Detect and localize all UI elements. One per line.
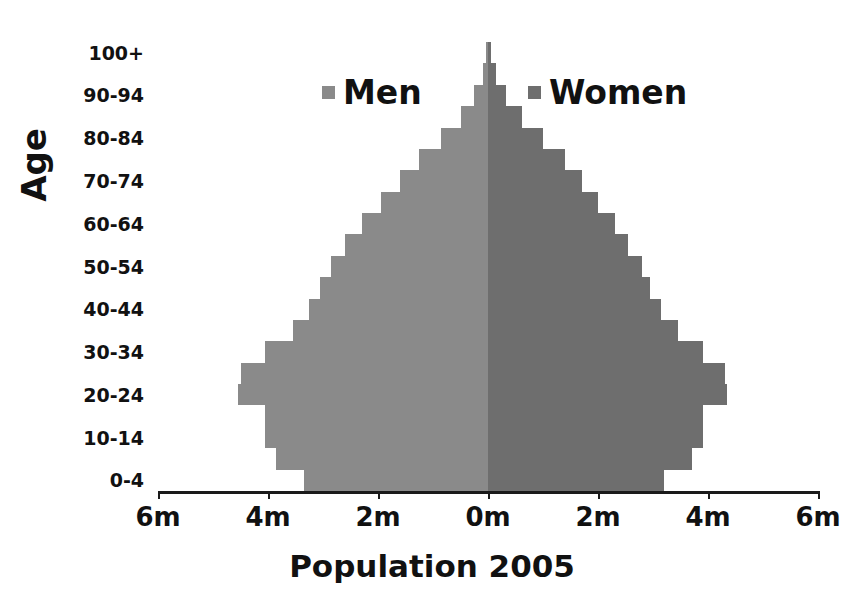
bar-row <box>158 85 818 106</box>
bar-row <box>158 106 818 127</box>
bar-row <box>158 128 818 149</box>
bar-women-15-19 <box>488 405 703 426</box>
y-tick-label-70-74: 70-74 <box>58 172 144 191</box>
bar-women-20-24 <box>488 384 727 405</box>
bar-men-0-4 <box>304 470 488 491</box>
y-tick-label-60-64: 60-64 <box>58 215 144 234</box>
bar-men-45-49 <box>320 277 488 298</box>
x-tick-mark <box>818 491 820 499</box>
bar-men-10-14 <box>265 427 488 448</box>
bar-men-20-24 <box>238 384 488 405</box>
bar-women-50-54 <box>488 256 642 277</box>
bar-row <box>158 427 818 448</box>
x-tick-label-5: 4m <box>668 502 748 532</box>
bar-row <box>158 256 818 277</box>
bar-women-60-64 <box>488 213 615 234</box>
x-tick-label-0: 6m <box>118 502 198 532</box>
y-tick-label-40-44: 40-44 <box>58 300 144 319</box>
bar-row <box>158 448 818 469</box>
bar-row <box>158 63 818 84</box>
bar-men-80-84 <box>441 128 488 149</box>
bar-men-5-9 <box>276 448 488 469</box>
bar-row <box>158 213 818 234</box>
bar-women-70-74 <box>488 170 582 191</box>
y-tick-label-10-14: 10-14 <box>58 429 144 448</box>
x-tick-label-2: 2m <box>338 502 418 532</box>
bar-women-45-49 <box>488 277 650 298</box>
bar-women-85-89 <box>488 106 522 127</box>
bar-men-40-44 <box>309 299 488 320</box>
bar-men-35-39 <box>293 320 488 341</box>
bar-men-65-69 <box>381 192 488 213</box>
bar-row <box>158 234 818 255</box>
bar-women-95-99 <box>488 63 496 84</box>
bar-women-65-69 <box>488 192 598 213</box>
y-tick-label-0-4: 0-4 <box>58 471 144 490</box>
bar-men-70-74 <box>400 170 488 191</box>
bar-row <box>158 405 818 426</box>
x-tick-label-4: 2m <box>558 502 638 532</box>
population-pyramid-chart: Age 100+90-9480-8470-7460-6450-5440-4430… <box>0 0 864 615</box>
x-tick-label-6: 6m <box>778 502 858 532</box>
x-tick-label-1: 4m <box>228 502 308 532</box>
bar-row <box>158 363 818 384</box>
y-tick-label-30-34: 30-34 <box>58 343 144 362</box>
bar-row <box>158 170 818 191</box>
x-tick-mark <box>708 491 710 499</box>
x-tick-mark <box>378 491 380 499</box>
bar-women-40-44 <box>488 299 661 320</box>
x-tick-mark <box>268 491 270 499</box>
bar-women-10-14 <box>488 427 703 448</box>
bar-men-90-94 <box>474 85 488 106</box>
bar-women-75-79 <box>488 149 565 170</box>
bar-men-85-89 <box>461 106 489 127</box>
x-tick-mark <box>598 491 600 499</box>
x-tick-label-3: 0m <box>448 502 528 532</box>
bar-row <box>158 42 818 63</box>
bar-women-0-4 <box>488 470 664 491</box>
bar-men-60-64 <box>362 213 489 234</box>
bar-women-25-29 <box>488 363 725 384</box>
bar-women-30-34 <box>488 341 703 362</box>
bar-women-5-9 <box>488 448 692 469</box>
y-axis-tick-labels: 100+90-9480-8470-7460-6450-5440-4430-342… <box>58 40 144 492</box>
y-axis-title: Age <box>14 95 54 235</box>
bar-row <box>158 277 818 298</box>
bar-row <box>158 192 818 213</box>
y-tick-label-20-24: 20-24 <box>58 386 144 405</box>
bar-men-25-29 <box>241 363 489 384</box>
bar-row <box>158 149 818 170</box>
bar-men-55-59 <box>345 234 488 255</box>
bar-women-90-94 <box>488 85 506 106</box>
bar-row <box>158 341 818 362</box>
bar-men-30-34 <box>265 341 488 362</box>
x-tick-mark <box>158 491 160 499</box>
bar-row <box>158 384 818 405</box>
chart-title: Population 2005 <box>0 548 864 584</box>
bar-women-100+ <box>488 42 491 63</box>
x-axis-tick-labels: 6m4m2m0m2m4m6m <box>0 502 864 536</box>
y-tick-label-50-54: 50-54 <box>58 258 144 277</box>
plot-area <box>158 42 818 491</box>
bar-men-75-79 <box>419 149 488 170</box>
x-tick-mark <box>488 491 490 499</box>
bar-row <box>158 470 818 491</box>
bar-row <box>158 299 818 320</box>
y-tick-label-100+: 100+ <box>58 44 144 63</box>
bar-women-55-59 <box>488 234 628 255</box>
y-tick-label-90-94: 90-94 <box>58 86 144 105</box>
bar-women-35-39 <box>488 320 678 341</box>
bar-men-50-54 <box>331 256 488 277</box>
y-tick-label-80-84: 80-84 <box>58 129 144 148</box>
bar-men-15-19 <box>265 405 488 426</box>
bar-women-80-84 <box>488 128 543 149</box>
bar-row <box>158 320 818 341</box>
